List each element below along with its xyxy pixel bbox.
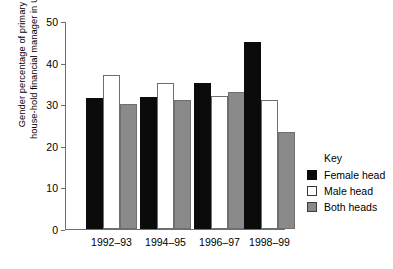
y-axis-tick-label: 0 [52,224,58,236]
legend-swatch-icon [307,186,317,196]
plot-area: 01020304050 1992–931994–951996–971998–99 [65,22,285,230]
legend-item-both: Both heads [307,201,385,213]
x-axis-tick-label: 1992–93 [91,236,132,248]
y-axis-tick [61,64,65,65]
legend-swatch-icon [307,202,317,212]
x-axis-tick-label: 1996–97 [199,236,240,248]
x-axis-tick-label: 1994–95 [145,236,186,248]
bar-group [86,22,137,229]
bar-male [261,100,278,229]
bar-female [194,83,211,229]
y-axis-tick [61,147,65,148]
bar-both [278,132,295,229]
bar-both [228,92,245,229]
y-axis-title-line-2: house-hold financial manager in US [28,0,40,175]
y-axis-tick [61,188,65,189]
y-axis-tick-label: 20 [46,141,58,153]
bar-male [157,83,174,229]
legend-title: Key [324,152,385,164]
bar-series-container [66,22,285,229]
y-axis-tick-label: 40 [46,58,58,70]
y-axis-tick-label: 30 [46,99,58,111]
y-axis-tick-label: 10 [46,182,58,194]
bar-chart-figure: Gender percentage of primary house-hold … [0,0,393,269]
legend-item-male: Male head [307,185,385,197]
legend-item-female: Female head [307,169,385,181]
y-axis-tick [61,105,65,106]
bar-both [174,100,191,229]
legend-item-label: Female head [324,169,385,181]
bar-male [103,75,120,229]
bar-female [86,98,103,229]
y-axis-tick [61,22,65,23]
legend-swatch-icon [307,170,317,180]
bar-group [140,22,191,229]
y-axis-tick [61,230,65,231]
bar-group [244,22,295,229]
x-axis-line [65,229,285,230]
legend-item-label: Male head [324,185,373,197]
y-axis-title: Gender percentage of primary house-hold … [17,0,40,175]
y-axis-title-line-1: Gender percentage of primary [17,0,29,175]
bar-female [244,42,261,229]
y-axis-tick-label: 50 [46,16,58,28]
bar-female [140,97,157,229]
legend-rows: Female headMale headBoth heads [307,169,385,213]
bar-male [211,96,228,229]
legend-item-label: Both heads [324,201,377,213]
x-axis-tick-label: 1998–99 [249,236,290,248]
legend: Key Female headMale headBoth heads [307,152,385,217]
bar-group [194,22,245,229]
bar-both [120,104,137,229]
